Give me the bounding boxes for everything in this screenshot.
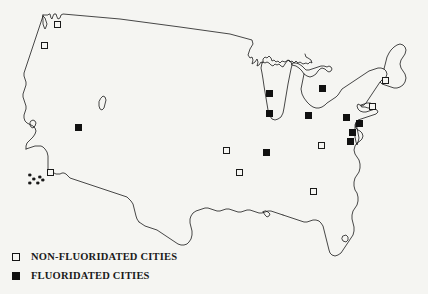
northern-border (43, 14, 312, 66)
fluoridated-city-marker (319, 85, 326, 92)
puget-sound (43, 16, 47, 29)
southwest-border (26, 146, 48, 172)
non-fluoridated-city-marker (310, 188, 317, 195)
fluoridated-city-marker (356, 120, 363, 127)
fluoridated-city-marker (343, 114, 350, 121)
fluoridated-city-marker (75, 124, 82, 131)
channel-islands-2 (33, 178, 35, 180)
florida-lake-okeechobee (342, 235, 348, 242)
filled-square-icon (12, 272, 20, 280)
fluoridated-city-marker (347, 138, 354, 145)
figure-canvas: NON-FLUORIDATED CITIES FLUORIDATED CITIE… (0, 0, 428, 294)
fluoridated-city-marker (263, 149, 270, 156)
legend-item-non-fluoridated: NON-FLUORIDATED CITIES (12, 247, 242, 266)
fluoridated-city-marker (266, 90, 273, 97)
pacific-coast (23, 15, 43, 149)
non-fluoridated-city-marker (223, 147, 230, 154)
legend-item-label: FLUORIDATED CITIES (31, 270, 150, 281)
gulf-coast (139, 208, 283, 245)
legend: NON-FLUORIDATED CITIES FLUORIDATED CITIE… (12, 247, 242, 285)
san-francisco-bay (30, 120, 36, 128)
non-fluoridated-city-marker (54, 21, 61, 28)
great-salt-lake (99, 96, 106, 110)
legend-item-label: NON-FLUORIDATED CITIES (31, 251, 177, 262)
non-fluoridated-city-marker (318, 142, 325, 149)
fluoridated-city-marker (349, 129, 356, 136)
hollow-square-icon (12, 253, 20, 261)
lake-huron-north-shore (292, 63, 332, 77)
lake-erie-ontario-shore (301, 68, 387, 108)
non-fluoridated-city-marker (41, 42, 48, 49)
southern-border-mexico (48, 172, 139, 222)
non-fluoridated-city-marker (236, 169, 243, 176)
non-fluoridated-city-marker (382, 77, 389, 84)
atlantic-coast-northeast (283, 82, 380, 256)
channel-islands-3 (37, 182, 39, 184)
channel-islands-5 (42, 179, 44, 181)
channel-islands-1 (29, 174, 31, 176)
legend-item-fluoridated: FLUORIDATED CITIES (12, 266, 242, 285)
channel-islands-4 (29, 182, 31, 184)
non-fluoridated-city-marker (47, 169, 54, 176)
channel-islands-6 (39, 176, 41, 178)
fluoridated-city-marker (305, 112, 312, 119)
fluoridated-city-marker (266, 110, 273, 117)
non-fluoridated-city-marker (369, 103, 376, 110)
